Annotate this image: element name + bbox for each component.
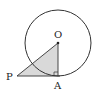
label-p: P (6, 71, 13, 82)
label-a: A (53, 80, 62, 91)
center-dot-o (57, 42, 60, 45)
geometry-diagram: O A P (0, 0, 99, 94)
label-o: O (54, 29, 62, 40)
